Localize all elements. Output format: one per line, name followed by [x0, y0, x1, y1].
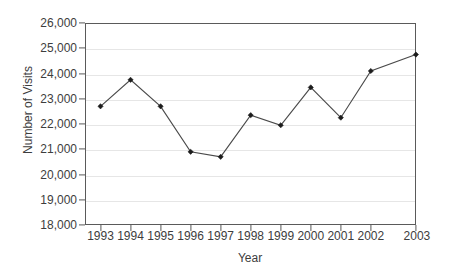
- data-point-2003: [413, 52, 418, 57]
- series-markers: [98, 52, 419, 159]
- series-layer: [0, 0, 460, 279]
- series-line-number-of-visits: [101, 55, 416, 157]
- line-chart: Number of Visits 26,000 25,000 24,000 23…: [0, 0, 460, 279]
- x-axis-title: Year: [84, 251, 416, 265]
